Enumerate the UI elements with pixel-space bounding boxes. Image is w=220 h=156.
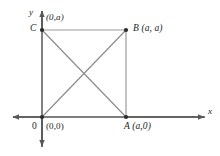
y-axis-label: y xyxy=(29,8,33,17)
vertex-point-b xyxy=(124,28,128,32)
vertex-point-a xyxy=(124,115,128,119)
origin-coord-label: (0,0) xyxy=(46,122,64,131)
vertex-label-c: C xyxy=(30,24,36,34)
origin-label-zero: 0 xyxy=(32,122,37,132)
vertex-point-origin xyxy=(40,115,44,119)
vertex-label-a: A (a,0) xyxy=(124,122,151,132)
x-axis-label: x xyxy=(208,107,212,116)
geometry-figure: y x C (0,a) B (a, a) A (a,0) 0 (0,0) xyxy=(0,0,220,156)
vertex-point-c xyxy=(40,28,44,32)
coord-label-c: (0,a) xyxy=(46,13,64,22)
vertex-label-b: B (a, a) xyxy=(133,24,163,34)
